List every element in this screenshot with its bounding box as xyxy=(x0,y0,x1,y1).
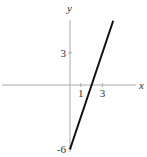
y-tick-label: -6 xyxy=(57,143,67,155)
line-chart: 13 3-6 x y xyxy=(0,0,147,157)
y-tick-label: 3 xyxy=(61,47,67,59)
x-tick-label: 1 xyxy=(78,87,84,99)
y-axis-label: y xyxy=(66,2,72,14)
x-tick-label: 3 xyxy=(100,87,106,99)
x-axis-label: x xyxy=(138,79,144,91)
